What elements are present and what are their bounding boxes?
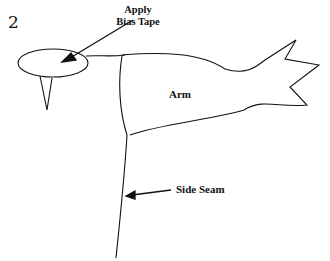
side-seam-line [116, 135, 127, 258]
shoulder-line [86, 55, 125, 56]
apply-bias-tape-label: Apply Bias Tape [108, 4, 168, 28]
armhole-seam [120, 56, 127, 135]
arm-outline [122, 40, 319, 135]
bias-tape-label-line: Bias Tape [108, 16, 168, 28]
side-seam-label: Side Seam [176, 183, 225, 195]
garment-diagram [0, 0, 330, 261]
side-seam-arrow [126, 190, 171, 199]
arm-label: Arm [169, 88, 191, 100]
tie-tail [40, 76, 52, 110]
apply-label-line: Apply [108, 4, 168, 16]
